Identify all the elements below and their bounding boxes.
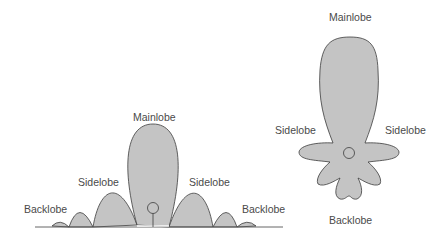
sidelobe-left-small [69,213,93,228]
sidelobe-left-large [93,193,137,227]
mainlobe-label: Mainlobe [133,111,176,123]
antenna-element-icon [344,148,355,159]
polar-lobes [299,37,399,199]
polar-mainlobe-label: Mainlobe [329,11,372,23]
sidelobe-right-label: Sidelobe [189,176,230,188]
antenna-element-icon [148,203,159,214]
backlobe-left-label: Backlobe [24,203,67,215]
sidelobe-left-label: Sidelobe [78,176,119,188]
backlobe-right-outer [237,222,256,227]
sidelobe-right-small [213,213,237,228]
antenna-radiation-pattern-figure: Mainlobe Sidelobe Sidelobe Backlobe Back… [0,0,444,244]
polar-backlobe-label: Backlobe [329,214,372,226]
polar-sidelobe-left-label: Sidelobe [275,124,316,136]
polar-pattern [299,37,399,199]
backlobe-right-label: Backlobe [242,203,285,215]
polar-sidelobe-right-label: Sidelobe [385,124,426,136]
backlobe-left-outer [52,222,69,227]
